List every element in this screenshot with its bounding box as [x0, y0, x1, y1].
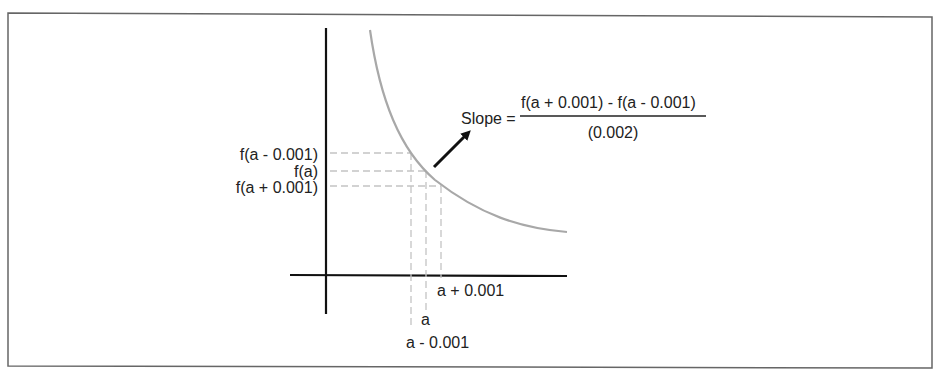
vertical-guides — [411, 153, 441, 328]
formula-denominator: (0.002) — [588, 124, 639, 141]
label-f-a-minus: f(a - 0.001) — [240, 146, 318, 163]
formula-lhs: Slope = — [461, 110, 516, 127]
formula-numerator: f(a + 0.001) - f(a - 0.001) — [521, 94, 696, 111]
label-f-a: f(a) — [294, 163, 318, 180]
diagram-canvas: f(a - 0.001) f(a) f(a + 0.001) a + 0.001… — [0, 0, 952, 382]
x-axis — [290, 275, 567, 276]
function-curve — [370, 30, 567, 232]
figure-frame — [8, 13, 932, 368]
label-a-minus: a - 0.001 — [406, 334, 469, 351]
label-a-plus: a + 0.001 — [437, 282, 504, 299]
label-f-a-plus: f(a + 0.001) — [236, 179, 318, 196]
label-a: a — [421, 311, 430, 328]
slope-arrow — [434, 133, 468, 167]
